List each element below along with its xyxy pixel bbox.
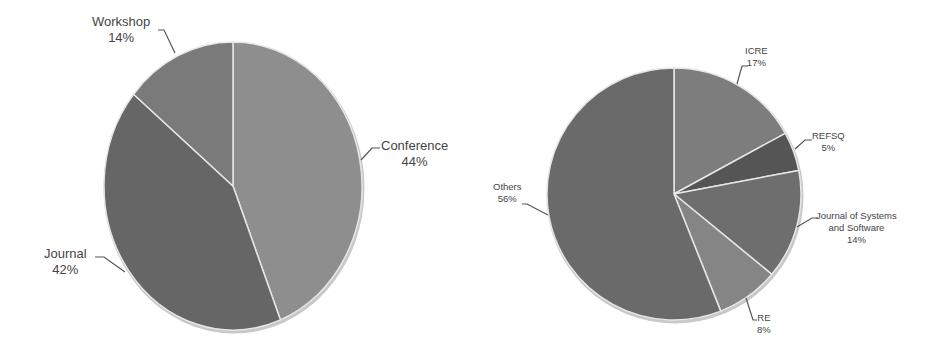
label-conference: Conference 44% [381, 138, 448, 171]
leader-line-others [522, 204, 548, 215]
leader-line-workshop [158, 30, 175, 53]
pie-chart-venue-type [104, 42, 365, 334]
pie-chart-venues [547, 68, 804, 324]
label-others: Others 56% [493, 181, 522, 205]
leader-line-conference [361, 148, 380, 160]
leader-line-refsq [795, 140, 812, 149]
label-re: RE 8% [757, 312, 771, 336]
chart-stage: Workshop 14% Conference 44% Journal 42% … [0, 0, 944, 354]
label-icre: ICRE 17% [745, 45, 768, 69]
label-journal-of-systems-and-software: Journal of Systems and Software 14% [816, 210, 897, 246]
label-workshop: Workshop 14% [92, 14, 150, 47]
leader-line-re [746, 298, 757, 320]
label-journal: Journal 42% [44, 246, 87, 279]
label-refsq: REFSQ 5% [812, 130, 845, 154]
pie-charts-canvas [0, 0, 944, 354]
